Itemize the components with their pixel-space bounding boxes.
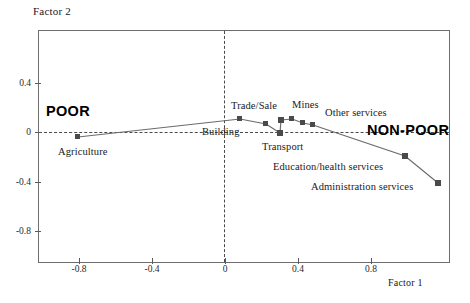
x-tick-label: -0.8 — [59, 264, 99, 274]
non-poor-region-label: NON-POOR — [367, 122, 449, 138]
y-tick-mark — [35, 132, 41, 133]
point-label-other-services: Other services — [325, 107, 387, 118]
y-axis-title: Factor 2 — [33, 5, 71, 17]
point-label-agriculture: Agriculture — [58, 146, 108, 157]
point-label-mines: Mines — [292, 99, 319, 110]
point-label-transport: Transport — [262, 141, 303, 152]
point-label-administration: Administration services — [311, 181, 413, 192]
x-tick-label: -0.4 — [132, 264, 172, 274]
zero-reference-line-vertical — [224, 31, 225, 262]
y-tick-label: -0.4 — [3, 177, 31, 187]
y-tick-label: -0.8 — [3, 226, 31, 236]
x-tick-label: 0.4 — [278, 264, 318, 274]
x-tick-label: 0.8 — [351, 264, 391, 274]
y-tick-mark — [35, 231, 41, 232]
point-label-building: Building — [202, 126, 240, 137]
y-tick-mark — [35, 182, 41, 183]
point-label-trade-sale: Trade/Sale — [231, 100, 277, 111]
x-axis-title: Factor 1 — [388, 277, 423, 288]
y-tick-label: 0 — [3, 127, 31, 137]
y-tick-mark — [35, 83, 41, 84]
poor-region-label: POOR — [46, 103, 90, 119]
x-tick-label: 0 — [205, 264, 245, 274]
factor-scatter-chart: Factor 2 Factor 1 -0.8 -0.4 0 0.4 0.8 0.… — [0, 0, 470, 303]
point-label-education-health: Education/health services — [273, 161, 383, 172]
y-tick-label: 0.4 — [3, 78, 31, 88]
